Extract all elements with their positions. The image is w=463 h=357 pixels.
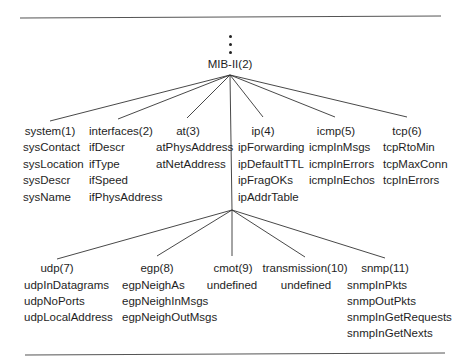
edge-udp: [57, 210, 232, 259]
leaf-ipAddrTable: ipAddrTable: [238, 190, 299, 204]
leaf-snmpOutPkts: snmpOutPkts: [347, 294, 416, 308]
edge-interfaces: [118, 75, 230, 119]
leaf-cmot-undefined: undefined: [207, 278, 258, 292]
edge-at: [187, 75, 230, 118]
leaf-ipDefaultTTL: ipDefaultTTL: [238, 157, 304, 171]
leaf-icmpInErrors: icmpInErrors: [309, 157, 374, 171]
leaf-ipForwarding: ipForwarding: [238, 140, 304, 154]
node-transmission: transmission(10): [263, 261, 348, 275]
leaf-egpNeighOutMsgs: egpNeighOutMsgs: [122, 310, 217, 324]
ellipsis-dot: [229, 35, 232, 38]
leaf-ifDescr: ifDescr: [89, 140, 125, 154]
ellipsis-dot: [229, 51, 232, 54]
root-node-label: MIB-II(2): [208, 57, 253, 71]
edge-transmission: [232, 210, 305, 257]
node-interfaces: interfaces(2): [89, 124, 153, 138]
leaf-snmpInPkts: snmpInPkts: [347, 278, 407, 292]
node-cmot: cmot(9): [214, 261, 253, 275]
leaf-udpInDatagrams: udpInDatagrams: [24, 278, 109, 292]
node-egp: egp(8): [140, 261, 173, 275]
node-udp: udp(7): [40, 261, 73, 275]
leaf-transmission-undefined: undefined: [281, 278, 332, 292]
leaf-sysDescr: sysDescr: [23, 173, 70, 187]
edge-snmp: [232, 210, 385, 258]
leaf-atPhysAddress: atPhysAddress: [156, 140, 233, 154]
node-system: system(1): [25, 124, 75, 138]
ellipsis-dot: [229, 43, 232, 46]
leaf-tcpInErrors: tcpInErrors: [383, 173, 439, 187]
leaf-ifPhysAddress: ifPhysAddress: [89, 190, 163, 204]
node-ip: ip(4): [251, 124, 274, 138]
leaf-udpLocalAddress: udpLocalAddress: [24, 310, 113, 324]
leaf-icmpInEchos: icmpInEchos: [309, 173, 375, 187]
leaf-tcpRtoMin: tcpRtoMin: [383, 140, 435, 154]
leaf-snmpInGetNexts: snmpInGetNexts: [347, 326, 433, 340]
leaf-atNetAddress: atNetAddress: [156, 157, 226, 171]
leaf-udpNoPorts: udpNoPorts: [24, 294, 85, 308]
leaf-sysName: sysName: [23, 190, 71, 204]
leaf-ifSpeed: ifSpeed: [89, 173, 128, 187]
bottom-rule: [25, 353, 445, 355]
node-icmp: icmp(5): [317, 124, 355, 138]
node-snmp: snmp(11): [361, 261, 409, 275]
edge-system: [50, 75, 230, 121]
leaf-icmpInMsgs: icmpInMsgs: [309, 140, 370, 154]
leaf-egpNeighInMsgs: egpNeighInMsgs: [122, 294, 208, 308]
edge-egp: [157, 210, 232, 256]
leaf-sysContact: sysContact: [23, 140, 80, 154]
node-at: at(3): [176, 124, 200, 138]
node-tcp: tcp(6): [392, 124, 421, 138]
leaf-tcpMaxConn: tcpMaxConn: [383, 157, 448, 171]
leaf-ipFragOKs: ipFragOKs: [238, 173, 293, 187]
leaf-sysLocation: sysLocation: [23, 157, 84, 171]
top-rule: [20, 16, 441, 18]
leaf-snmpInGetRequests: snmpInGetRequests: [347, 310, 452, 324]
leaf-egpNeighAs: egpNeighAs: [122, 278, 185, 292]
leaf-ifType: ifType: [89, 157, 120, 171]
